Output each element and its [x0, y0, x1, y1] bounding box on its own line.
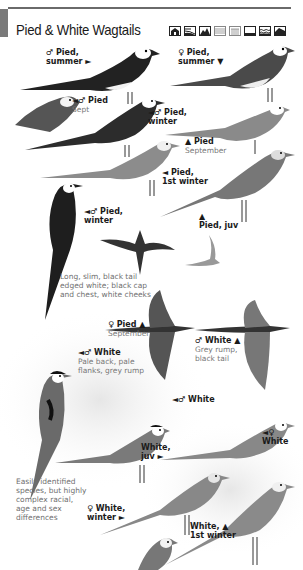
label-male-pied-summer: ♂ Pied, summer ►	[46, 48, 91, 66]
label-female-pied-summer: ♀ Pied, summer ▼	[178, 48, 223, 66]
label-line: juv ►	[141, 452, 164, 461]
urban-habitat-icon	[169, 26, 181, 36]
label-male-white: ◄♂ White	[172, 395, 215, 404]
label-line: ◄♂ Pied,	[84, 207, 123, 216]
label-line: ♂ Pied,	[46, 48, 79, 57]
label-subtext: Grey rump,	[195, 345, 240, 354]
label-line: winter	[84, 216, 113, 225]
section-tab	[0, 9, 8, 37]
label-line: ▲	[199, 212, 205, 221]
note-line: age and sex	[16, 504, 62, 513]
note-line: complex racial,	[16, 495, 73, 504]
note-line: differences	[16, 513, 58, 522]
label-subtext: September	[108, 329, 149, 338]
label-female-pied-flight: ♀ Pied ▲ September	[108, 320, 149, 338]
note-line: species, but highly	[16, 486, 87, 495]
label-line: ◄♂ White	[172, 395, 215, 404]
header-rule	[8, 7, 291, 9]
label-subtext: black tail	[195, 354, 240, 363]
note-line: edged white; black cap	[60, 281, 147, 290]
label-line: summer ▼	[178, 57, 223, 66]
label-male-white-perched: ◄♂ White Pale back, pale flanks, grey ru…	[78, 348, 144, 375]
label-female-white-winter: ♀ White, winter ►	[87, 504, 125, 522]
label-line: summer ►	[46, 57, 91, 66]
coast-habitat-icon	[274, 26, 286, 36]
reedbed-habitat-icon	[229, 26, 241, 36]
label-pied-september: ▲ Pied September	[185, 137, 226, 155]
label-line: ♂ White ▲	[195, 336, 240, 345]
bird-flight-pale	[185, 235, 220, 270]
label-line: winter	[148, 117, 177, 126]
bird-flight-dark	[100, 230, 175, 275]
label-subtext: flanks, grey rump	[78, 366, 144, 375]
label-line: ◄♂ Pied,	[148, 108, 187, 117]
label-line: ♀ Pied,	[178, 48, 209, 57]
label-pied-1st-winter: ◄ Pied, 1st winter	[162, 168, 208, 186]
label-line: White,	[141, 443, 171, 452]
label-pied-juv: ▲ Pied, juv	[199, 212, 238, 230]
label-subtext: Sept	[72, 105, 108, 114]
label-subtext: Pale back, pale	[78, 357, 144, 366]
label-subtext: September	[185, 146, 226, 155]
label-line: ♀ Pied ▲	[108, 320, 145, 329]
label-line: White	[262, 437, 289, 446]
label-line: ▲ Pied	[185, 137, 214, 146]
illustration-plate: ♂ Pied, summer ► ♀ Pied, summer ▼ ◄♂ Pie…	[0, 40, 303, 551]
farmland-habitat-icon	[184, 26, 196, 36]
label-white-1st-winter: White, ▲ 1st winter	[190, 522, 236, 540]
note-species: Easily identified species, but highly co…	[16, 477, 87, 522]
label-male-pied-winter-top: ◄♂ Pied, winter	[148, 108, 187, 126]
label-line: 1st winter	[190, 531, 236, 540]
label-female-white: ◄♀ White	[262, 428, 289, 446]
label-male-pied-sept: ◄♂ Pied Sept	[72, 96, 108, 114]
label-line: winter ►	[87, 513, 125, 522]
bird-male-pied-winter-upright	[25, 180, 85, 320]
label-line: ◄♀	[262, 428, 274, 437]
label-line: ♀ White,	[87, 504, 125, 513]
label-line: Pied, juv	[199, 221, 238, 230]
note-tail: Long, slim, black tail edged white; blac…	[60, 272, 151, 299]
note-line: and chest, white cheeks	[60, 290, 151, 299]
label-line: ◄♂ White	[78, 348, 121, 357]
grassland-habitat-icon	[244, 26, 256, 36]
label-line: 1st winter	[162, 177, 208, 186]
page-title: Pied & White Wagtails	[16, 21, 141, 38]
wetland-habitat-icon	[214, 26, 226, 36]
freshwater-habitat-icon	[259, 26, 271, 36]
label-white-juv: White, juv ►	[141, 443, 171, 461]
note-line: Long, slim, black tail	[60, 272, 137, 281]
label-line: ◄♂ Pied	[72, 96, 108, 105]
note-line: Easily identified	[16, 477, 76, 486]
label-male-white-flight: ♂ White ▲ Grey rump, black tail	[195, 336, 240, 363]
habitat-icons	[169, 26, 286, 36]
label-male-pied-winter: ◄♂ Pied, winter	[84, 207, 123, 225]
label-line: White, ▲	[190, 522, 229, 531]
label-line: ◄ Pied,	[162, 168, 194, 177]
mountain-habitat-icon	[199, 26, 211, 36]
